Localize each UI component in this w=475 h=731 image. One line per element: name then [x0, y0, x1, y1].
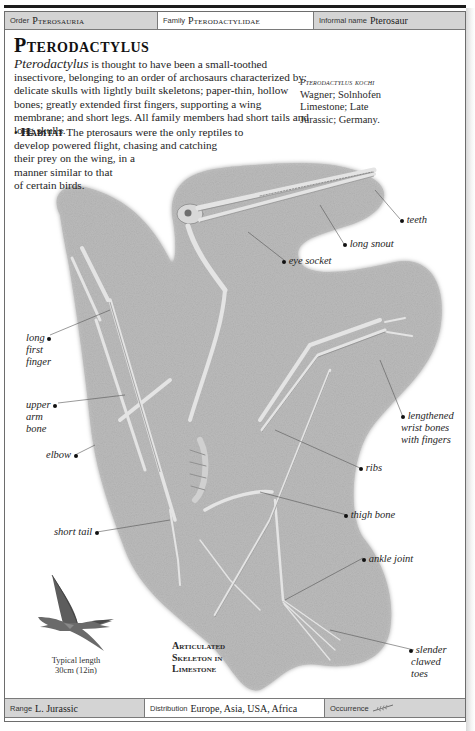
- callout-label: clawed: [409, 656, 447, 668]
- callout-label: with fingers: [401, 434, 454, 446]
- callout-label: slender: [416, 644, 447, 655]
- callout-label: upper: [26, 399, 51, 410]
- habitat-line: manner similar to that: [14, 166, 314, 179]
- scale-line: 30cm (12in): [36, 665, 116, 675]
- callout-label: teeth: [407, 214, 427, 225]
- callout-label: finger: [26, 356, 51, 368]
- callout-label: ribs: [366, 462, 382, 473]
- leader-dot: [47, 337, 51, 341]
- habitat-paragraph: • Habitat The pterosaurs were the only r…: [14, 126, 314, 192]
- caption-line: Skeleton in: [172, 652, 225, 664]
- leader-dot: [95, 531, 99, 535]
- leader-dot: [409, 649, 413, 653]
- habitat-line: of certain birds.: [14, 179, 314, 192]
- callout-label: bone: [26, 423, 57, 435]
- habitat-line: The pterosaurs were the only reptiles to: [64, 126, 244, 138]
- typical-length: Typical length 30cm (12in): [36, 655, 116, 675]
- callout-label: elbow: [46, 449, 71, 460]
- caption-line: Limestone: [172, 663, 225, 675]
- habitat-line: develop powered flight, chasing and catc…: [14, 139, 314, 152]
- pterosaur-silhouette-icon: [34, 573, 124, 653]
- callout-label: lengthened: [408, 410, 454, 421]
- callout-label: thigh bone: [351, 509, 396, 520]
- callout-label: eye socket: [289, 255, 332, 266]
- callout-label: arm: [26, 411, 57, 423]
- callout-short-tail: short tail: [54, 526, 99, 538]
- leader-dot: [282, 260, 286, 264]
- skeleton-caption: Articulated Skeleton in Limestone: [172, 640, 225, 675]
- callout-label: ankle joint: [369, 553, 414, 564]
- leader-dot: [400, 219, 404, 223]
- bullet: •: [14, 126, 18, 138]
- callout-eye-socket: eye socket: [282, 255, 331, 267]
- habitat-line: their prey on the wing, in a: [14, 152, 314, 165]
- callout-label: long snout: [350, 238, 394, 249]
- leader-dot: [401, 415, 405, 419]
- callout-lengthened-wrist-bones: lengthened wrist bones with fingers: [401, 410, 454, 446]
- callout-slender-clawed-toes: slender clawed toes: [409, 644, 447, 680]
- callout-thigh-bone: thigh bone: [344, 509, 395, 521]
- leader-dot: [343, 243, 347, 247]
- callout-ankle-joint: ankle joint: [362, 553, 413, 565]
- callout-long-snout: long snout: [343, 238, 394, 250]
- callout-long-first-finger: long first finger: [26, 332, 51, 368]
- leader-dot: [362, 558, 366, 562]
- callout-teeth: teeth: [400, 214, 427, 226]
- habitat-heading: Habitat: [21, 125, 64, 139]
- callout-label: toes: [409, 668, 447, 680]
- scale-line: Typical length: [36, 655, 116, 665]
- callout-upper-arm-bone: upper arm bone: [26, 399, 57, 435]
- leader-dot: [53, 404, 57, 408]
- caption-line: Articulated: [172, 640, 225, 652]
- callout-label: long: [26, 332, 45, 343]
- callout-ribs: ribs: [359, 462, 382, 474]
- callout-label: first: [26, 344, 51, 356]
- callout-label: short tail: [54, 526, 92, 537]
- leader-dot: [74, 454, 78, 458]
- leader-dot: [359, 467, 363, 471]
- leader-dot: [344, 514, 348, 518]
- callout-label: wrist bones: [401, 422, 454, 434]
- callout-elbow: elbow: [46, 449, 78, 461]
